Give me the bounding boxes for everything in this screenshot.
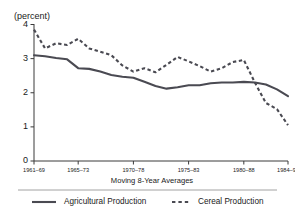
y-tick-label: 0 xyxy=(23,155,28,165)
line-chart-svg: (percent) 01234 1961–691965–731970–78197… xyxy=(0,0,295,212)
x-tick-label: 1975–83 xyxy=(178,167,200,173)
y-axis-ticks: 01234 xyxy=(23,19,34,166)
x-tick-label: 1961–69 xyxy=(23,167,45,173)
legend: Agricultural Production Cereal Productio… xyxy=(32,197,264,206)
series-line-cereal-production xyxy=(34,30,288,126)
y-tick-label: 3 xyxy=(23,53,28,63)
legend-label-cereal-production: Cereal Production xyxy=(198,197,264,206)
x-tick-label: 1984–92 xyxy=(277,167,295,173)
y-tick-label: 4 xyxy=(23,19,28,29)
x-tick-label: 1970–78 xyxy=(123,167,145,173)
x-tick-label: 1965–73 xyxy=(67,167,89,173)
x-axis-title: Moving 8-Year Averages xyxy=(111,176,194,185)
series-line-agricultural-production xyxy=(34,55,288,96)
x-axis-ticks: 1961–691965–731970–781975–831980–881984–… xyxy=(23,161,295,173)
y-tick-label: 1 xyxy=(23,121,28,131)
legend-label-agricultural-production: Agricultural Production xyxy=(64,197,147,206)
chart-figure: (percent) 01234 1961–691965–731970–78197… xyxy=(0,0,295,212)
y-tick-label: 2 xyxy=(23,87,28,97)
x-tick-label: 1980–88 xyxy=(233,167,255,173)
y-axis-unit-label: (percent) xyxy=(14,11,50,21)
